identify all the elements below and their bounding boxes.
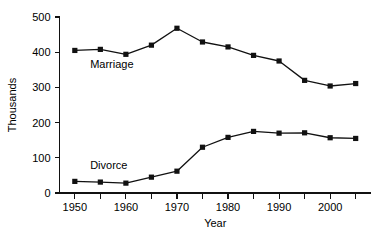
y-axis: 0100200300400500 Thousands — [6, 11, 60, 199]
x-tick-label: 1990 — [267, 201, 291, 213]
y-tick-label: 200 — [32, 117, 50, 129]
data-point-marker — [225, 135, 230, 140]
y-tick-group: 0100200300400500 — [32, 11, 59, 199]
y-tick-label: 0 — [44, 187, 50, 199]
x-tick-label: 1970 — [165, 201, 189, 213]
x-tick-group: 195019601970198019902000 — [63, 193, 356, 213]
x-tick-label: 1950 — [63, 201, 87, 213]
data-point-marker — [149, 175, 154, 180]
data-point-marker — [225, 44, 230, 49]
data-point-marker — [328, 135, 333, 140]
series-annotation-divorce: Divorce — [90, 159, 127, 171]
line-chart: 0100200300400500 Thousands 1950196019701… — [0, 0, 385, 236]
y-tick-label: 400 — [32, 46, 50, 58]
data-point-marker — [200, 39, 205, 44]
data-point-marker — [302, 78, 307, 83]
series-annotation-marriage: Marriage — [90, 58, 133, 70]
data-point-marker — [149, 43, 154, 48]
x-axis: 195019601970198019902000 Year — [60, 193, 372, 229]
data-point-marker — [251, 53, 256, 58]
data-point-marker — [353, 136, 358, 141]
data-point-marker — [123, 52, 128, 57]
x-tick-label: 1980 — [216, 201, 240, 213]
data-point-marker — [123, 181, 128, 186]
data-point-marker — [276, 131, 281, 136]
data-point-marker — [72, 48, 77, 53]
data-point-marker — [276, 58, 281, 63]
y-axis-title: Thousands — [6, 77, 18, 132]
data-point-marker — [72, 179, 77, 184]
data-point-marker — [328, 83, 333, 88]
data-point-marker — [98, 179, 103, 184]
data-point-marker — [200, 145, 205, 150]
data-point-marker — [353, 81, 358, 86]
series-divorce — [72, 129, 358, 186]
x-tick-label: 1960 — [114, 201, 138, 213]
x-axis-title: Year — [204, 217, 227, 229]
series-line — [75, 131, 356, 183]
data-point-marker — [174, 169, 179, 174]
y-tick-label: 100 — [32, 152, 50, 164]
x-tick-label: 2000 — [318, 201, 342, 213]
series-label-layer: MarriageDivorce — [90, 58, 133, 171]
data-point-marker — [251, 129, 256, 134]
y-tick-label: 500 — [32, 11, 50, 23]
data-point-marker — [98, 47, 103, 52]
chart-canvas: 0100200300400500 Thousands 1950196019701… — [0, 0, 385, 236]
data-point-marker — [302, 130, 307, 135]
y-tick-label: 300 — [32, 81, 50, 93]
data-point-marker — [174, 26, 179, 31]
